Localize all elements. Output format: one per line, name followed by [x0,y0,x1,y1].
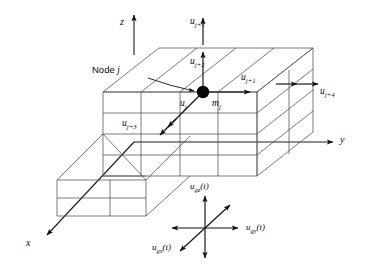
node-callout-leader [148,78,194,91]
dof-label-uj5: uj+5 [190,17,205,29]
node-mass-symbol: m [212,98,219,108]
wing-upper-edge [146,136,190,180]
dof-label-uj4: uj+4 [320,87,335,99]
ground-motion-label-z: ugz(t) [190,182,209,193]
node-callout-index: j [117,65,120,75]
node-callout-text: Node [92,64,115,75]
dof-subscript-uj2: j+2 [195,61,205,68]
ground-motion-arg-z: (t) [200,181,209,191]
figure-canvas [0,0,374,278]
right-face-floor-line [257,69,313,113]
ground-motion-arrow-x-near [180,228,205,251]
dof-subscript-uj1: j+1 [246,77,256,84]
x-axis-label: x [26,238,30,248]
right-face-floor-line [257,111,313,155]
node-mass-subscript: j [219,103,221,110]
dof-label-uj: uj [180,99,187,111]
wing-top-face [57,134,146,180]
wing-bottom-edge [146,176,190,216]
dof-subscript-uj: j [185,103,187,110]
dof-label-uj3: uj+3 [122,119,137,131]
dof-label-uj2: uj+2 [190,57,205,69]
dof-subscript-uj3: j+3 [127,123,137,130]
dof-label-uj1: uj+1 [241,73,256,85]
ground-motion-arg-x: (t) [163,242,172,252]
ground-motion-triad [172,196,238,258]
dof-subscript-uj4: j+4 [325,91,335,98]
ground-motion-arg-y: (t) [257,222,266,232]
x-axis-line [47,142,134,235]
right-face-floor-line [257,90,313,134]
ground-motion-arrow-x-far [205,205,230,228]
dof-subscript-uj5: j+5 [195,21,205,28]
node-callout-label: Node j [92,65,120,76]
ground-motion-label-x: ugx(t) [152,243,171,254]
structural-dof-figure: z y x Node j mj uj+5 uj+2 uj+1 uj+4 uj u… [0,0,374,278]
main-building-block [103,48,313,176]
dof-arrow-uj3 [160,119,176,135]
ground-motion-label-y: ugy(t) [246,223,265,234]
node-mass-label: mj [212,99,221,111]
z-axis-label: z [120,17,124,27]
y-axis-label: y [340,135,344,145]
node-dof-group [148,18,318,135]
